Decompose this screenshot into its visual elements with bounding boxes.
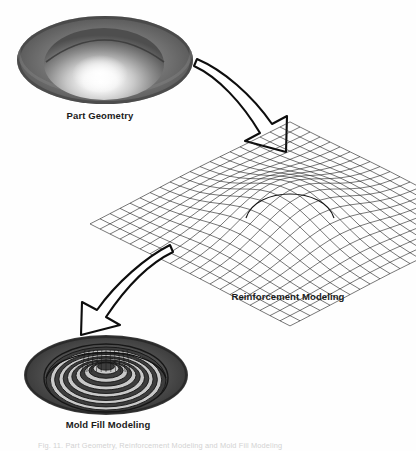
mold-fill-modeling-illustration: [22, 332, 190, 418]
part-geometry-illustration: [14, 12, 196, 108]
arrow-body: [81, 245, 173, 335]
contour-dome-svg: [22, 332, 190, 418]
curved-arrow-down-left-svg: [66, 240, 178, 338]
mold-fill-modeling-label: Mold Fill Modeling: [66, 419, 151, 430]
reinforcement-modeling-illustration: [184, 162, 396, 284]
wireframe-mesh-svg: [184, 162, 396, 284]
part-dome-highlight: [72, 55, 128, 93]
reinforcement-modeling-label: Reinforcement Modeling: [231, 291, 344, 302]
part-geometry-label: Part Geometry: [67, 110, 134, 121]
figure-caption: Fig. 11. Part Geometry, Reinforcement Mo…: [38, 441, 378, 450]
shaded-dome-svg: [14, 12, 196, 108]
arrow-reinforcement-to-moldfill: [66, 240, 178, 338]
arrow-body: [194, 59, 287, 152]
figure-canvas: Part Geometry Reinforcement Modeling: [0, 0, 416, 451]
